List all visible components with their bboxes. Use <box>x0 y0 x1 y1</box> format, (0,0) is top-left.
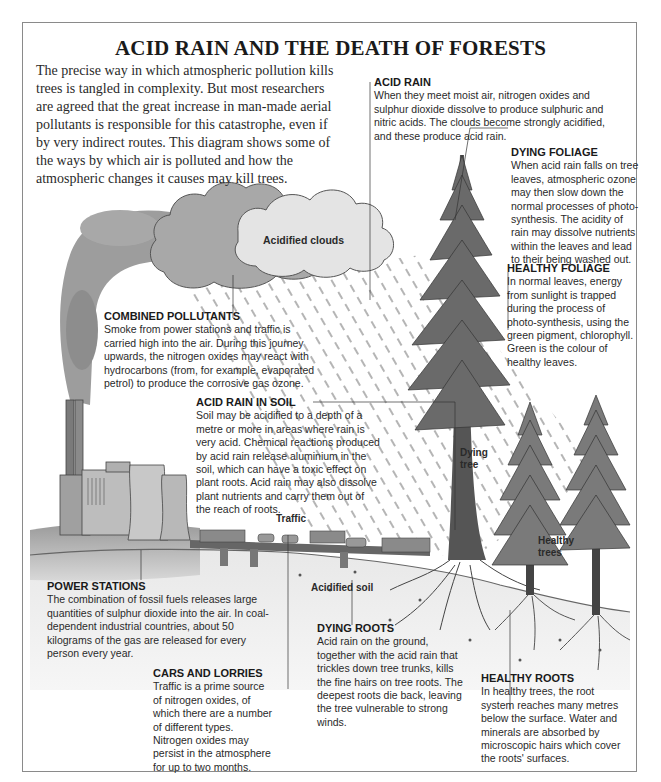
power-station <box>60 400 190 540</box>
annotation-healthy-foliage: HEALTHY FOLIAGE In normal leaves, energy… <box>507 262 635 369</box>
annotation-healthy-roots: HEALTHY ROOTS In healthy trees, the root… <box>481 672 629 766</box>
annotation-heading: CARS AND LORRIES <box>153 667 275 680</box>
label-acidified-clouds: Acidified clouds <box>263 234 344 246</box>
annotation-cars-and-lorries: CARS AND LORRIES Traffic is a prime sour… <box>153 667 275 774</box>
label-acidified-soil: Acidified soil <box>311 582 373 594</box>
annotation-combined-pollutants: COMBINED POLLUTANTS Smoke from power sta… <box>104 310 324 390</box>
annotation-heading: COMBINED POLLUTANTS <box>104 310 324 323</box>
label-dying-tree-line2: tree <box>460 459 478 470</box>
annotation-heading: HEALTHY ROOTS <box>481 672 629 685</box>
annotation-body: The combination of fossil fuels releases… <box>47 593 269 659</box>
annotation-body: Soil may be acidified to a depth of a me… <box>196 409 380 515</box>
annotation-heading: ACID RAIN IN SOIL <box>196 396 380 409</box>
annotation-heading: HEALTHY FOLIAGE <box>507 262 635 275</box>
label-dying-tree: Dying tree <box>460 447 488 471</box>
intro-paragraph: The precise way in which atmospheric pol… <box>36 62 336 188</box>
label-dying-tree-line1: Dying <box>460 447 488 458</box>
page-title: ACID RAIN AND THE DEATH OF FORESTS <box>0 36 661 61</box>
annotation-heading: ACID RAIN <box>374 76 614 89</box>
label-healthy-trees: Healthy trees <box>538 535 574 559</box>
annotation-heading: POWER STATIONS <box>47 580 277 593</box>
annotation-heading: DYING FOLIAGE <box>511 146 639 159</box>
annotation-dying-roots: DYING ROOTS Acid rain on the ground, tog… <box>317 622 467 729</box>
annotation-body: Smoke from power stations and traffic is… <box>104 323 314 389</box>
annotation-body: When acid rain falls on tree leaves, atm… <box>511 159 638 265</box>
annotation-power-stations: POWER STATIONS The combination of fossil… <box>47 580 277 660</box>
annotation-heading: DYING ROOTS <box>317 622 467 635</box>
annotation-acid-rain: ACID RAIN When they meet moist air, nitr… <box>374 76 614 143</box>
annotation-acid-rain-in-soil: ACID RAIN IN SOIL Soil may be acidified … <box>196 396 380 517</box>
annotation-body: Acid rain on the ground, together with t… <box>317 635 463 727</box>
annotation-body: When they meet moist air, nitrogen oxide… <box>374 89 605 141</box>
annotation-body: In healthy trees, the root system reache… <box>481 685 620 764</box>
annotation-body: Traffic is a prime source of nitrogen ox… <box>153 680 272 772</box>
annotation-dying-foliage: DYING FOLIAGE When acid rain falls on tr… <box>511 146 639 267</box>
label-healthy-trees-line2: trees <box>538 547 562 558</box>
label-healthy-trees-line1: Healthy <box>538 535 574 546</box>
annotation-body: In normal leaves, energy from sunlight i… <box>507 275 633 367</box>
